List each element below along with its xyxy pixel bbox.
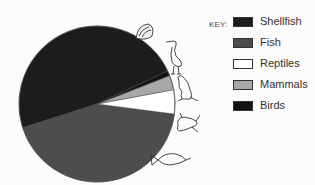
legend-label: Mammals bbox=[260, 78, 308, 90]
legend-title: KEY: bbox=[209, 20, 228, 29]
legend-label: Birds bbox=[260, 99, 285, 111]
legend-label: Shellfish bbox=[260, 15, 302, 27]
legend-swatch bbox=[233, 80, 253, 90]
legend-swatch bbox=[233, 101, 253, 111]
legend-label: Reptiles bbox=[260, 57, 300, 69]
fish-icon bbox=[151, 154, 191, 165]
shell-icon bbox=[136, 24, 153, 39]
lizard-icon bbox=[177, 113, 200, 132]
egret-bird-icon bbox=[166, 41, 181, 74]
pie-chart bbox=[0, 0, 315, 185]
legend-swatch bbox=[233, 59, 253, 69]
kangaroo-icon bbox=[178, 76, 198, 101]
legend-swatch bbox=[233, 17, 253, 27]
legend-label: Fish bbox=[260, 36, 281, 48]
legend-swatch bbox=[233, 38, 253, 48]
